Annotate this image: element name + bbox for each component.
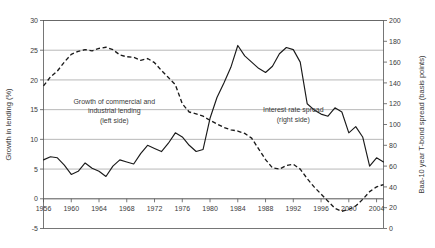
y2-tick-label-140: 140 [389,80,401,87]
chart-container: -505101520253002040608010012014016018020… [0,0,435,248]
line-chart: -505101520253002040608010012014016018020… [0,0,435,248]
y-tick-label-10: 10 [30,136,38,143]
y2-axis-title: Baa-10 year T-bond spread (basis points) [417,55,426,193]
x-tick-label-1992: 1992 [286,205,302,212]
y-tick-label-5: 5 [34,166,38,173]
y2-tick-label-60: 60 [389,163,397,170]
lending-annotation-line-0: Growth of commercial and [73,98,155,105]
y2-tick-label-20: 20 [389,204,397,211]
y-tick-label-15: 15 [30,106,38,113]
y2-tick-label-40: 40 [389,184,397,191]
x-tick-label-1984: 1984 [230,205,246,212]
y2-tick-label-200: 200 [389,17,401,24]
y2-tick-label-100: 100 [389,121,401,128]
y2-tick-label-80: 80 [389,142,397,149]
lending-annotation-line-1: industrial lending [88,107,141,115]
y-tick-label-30: 30 [30,17,38,24]
spread-annotation-line-1: (right side) [277,116,310,124]
y2-tick-label-0: 0 [389,225,393,232]
x-tick-label-1976: 1976 [174,205,190,212]
spread-annotation-line-0: Interest rate spread [263,106,324,114]
y2-tick-label-160: 160 [389,59,401,66]
x-tick-label-1964: 1964 [91,205,107,212]
x-tick-label-2004: 2004 [369,205,385,212]
lending-annotation-line-2: (left side) [100,117,129,125]
x-tick-label-1968: 1968 [119,205,135,212]
y-tick-label-20: 20 [30,77,38,84]
y2-tick-label-120: 120 [389,100,401,107]
y-tick-label-25: 25 [30,47,38,54]
x-tick-label-1956: 1956 [36,205,52,212]
x-tick-label-1960: 1960 [63,205,79,212]
y2-tick-label-180: 180 [389,38,401,45]
x-tick-label-1988: 1988 [258,205,274,212]
x-tick-label-2000: 2000 [341,205,357,212]
x-tick-label-1972: 1972 [147,205,163,212]
x-tick-label-1996: 1996 [313,205,329,212]
y-axis-title: Growth in lending (%) [4,88,13,161]
x-tick-label-1980: 1980 [202,205,218,212]
y-tick-label--5: -5 [32,225,38,232]
y-tick-label-0: 0 [34,195,38,202]
